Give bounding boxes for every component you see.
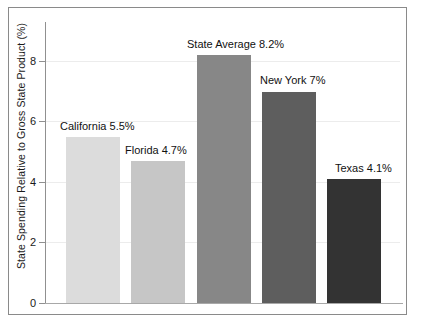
y-tick-mark-0 (39, 303, 45, 304)
bar-new-york[interactable] (262, 92, 316, 304)
y-tick-label-6: 6 (6, 116, 36, 127)
bar-california[interactable] (66, 137, 120, 303)
y-tick-label-2: 2 (6, 237, 36, 248)
plot-area: California 5.5% Florida 4.7% State Avera… (46, 22, 400, 303)
bar-label-texas: Texas 4.1% (335, 162, 392, 174)
y-tick-mark-2 (39, 242, 45, 243)
y-tick-mark-4 (39, 182, 45, 183)
y-tick-mark-8 (39, 61, 45, 62)
bar-label-california: California 5.5% (60, 120, 135, 132)
bar-florida[interactable] (131, 161, 185, 303)
bar-state-average[interactable] (197, 55, 251, 303)
y-tick-label-8: 8 (6, 56, 36, 67)
x-axis-baseline (45, 303, 403, 304)
y-tick-label-0: 0 (6, 298, 36, 309)
y-tick-mark-6 (39, 121, 45, 122)
bar-chart-figure: State Spending Relative to Gross State P… (0, 0, 424, 329)
bar-label-new-york: New York 7% (260, 74, 325, 86)
bar-texas[interactable] (327, 179, 381, 303)
y-tick-label-4: 4 (6, 177, 36, 188)
bar-label-state-average: State Average 8.2% (187, 38, 284, 50)
bar-label-florida: Florida 4.7% (125, 144, 187, 156)
